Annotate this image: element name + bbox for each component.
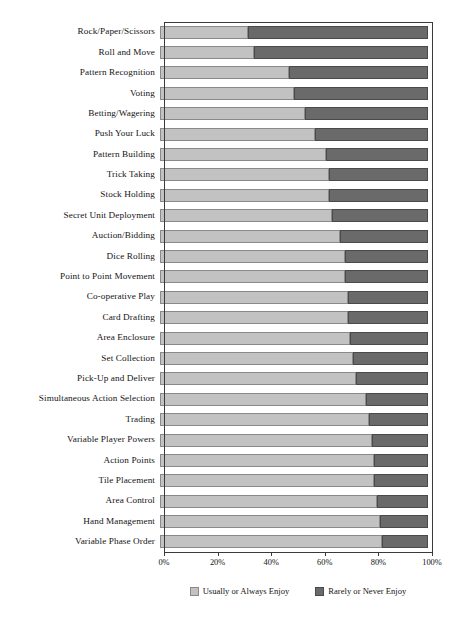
bar-track — [160, 270, 428, 283]
bar-segment-usually-or-always-enjoy — [160, 189, 329, 202]
chart-row: Trick Taking — [0, 165, 454, 185]
legend-item: Usually or Always Enjoy — [190, 586, 290, 596]
bar-track — [160, 352, 428, 365]
category-label: Tile Placement — [0, 476, 160, 486]
bar-segment-usually-or-always-enjoy — [160, 372, 356, 385]
bar-segment-rarely-or-never-enjoy — [315, 128, 428, 141]
stacked-bar-chart: Rock/Paper/ScissorsRoll and MovePattern … — [0, 0, 454, 638]
bar-track — [160, 291, 428, 304]
category-label: Point to Point Movement — [0, 272, 160, 282]
bar-segment-usually-or-always-enjoy — [160, 46, 254, 59]
bar-track — [160, 168, 428, 181]
legend-label: Usually or Always Enjoy — [203, 586, 290, 596]
bar-segment-rarely-or-never-enjoy — [380, 515, 428, 528]
chart-row: Voting — [0, 83, 454, 103]
category-label: Card Drafting — [0, 313, 160, 323]
category-label: Auction/Bidding — [0, 231, 160, 241]
category-label: Variable Player Powers — [0, 435, 160, 445]
bar-segment-usually-or-always-enjoy — [160, 332, 350, 345]
category-label: Secret Unit Deployment — [0, 211, 160, 221]
x-axis-tick — [325, 552, 326, 556]
chart-row: Variable Phase Order — [0, 532, 454, 552]
category-label: Set Collection — [0, 354, 160, 364]
x-axis-line — [164, 552, 432, 553]
bar-segment-usually-or-always-enjoy — [160, 168, 329, 181]
chart-row: Variable Player Powers — [0, 430, 454, 450]
category-label: Variable Phase Order — [0, 537, 160, 547]
bar-segment-rarely-or-never-enjoy — [348, 311, 428, 324]
legend-swatch-icon — [315, 587, 324, 596]
bar-track — [160, 230, 428, 243]
bar-segment-usually-or-always-enjoy — [160, 495, 377, 508]
category-label: Hand Management — [0, 517, 160, 527]
bar-segment-usually-or-always-enjoy — [160, 87, 294, 100]
chart-row: Co-operative Play — [0, 287, 454, 307]
bar-segment-rarely-or-never-enjoy — [353, 352, 428, 365]
category-label: Trick Taking — [0, 170, 160, 180]
bar-segment-rarely-or-never-enjoy — [345, 250, 428, 263]
bar-track — [160, 46, 428, 59]
chart-row: Auction/Bidding — [0, 226, 454, 246]
x-axis-tick — [378, 552, 379, 556]
bar-segment-rarely-or-never-enjoy — [332, 209, 428, 222]
chart-row: Simultaneous Action Selection — [0, 389, 454, 409]
chart-row: Card Drafting — [0, 307, 454, 327]
category-label: Pattern Building — [0, 150, 160, 160]
bar-segment-usually-or-always-enjoy — [160, 393, 366, 406]
chart-row: Secret Unit Deployment — [0, 206, 454, 226]
bar-track — [160, 454, 428, 467]
bar-segment-rarely-or-never-enjoy — [377, 495, 428, 508]
bar-track — [160, 66, 428, 79]
bar-segment-usually-or-always-enjoy — [160, 230, 340, 243]
bar-segment-rarely-or-never-enjoy — [369, 413, 428, 426]
bar-segment-rarely-or-never-enjoy — [248, 26, 428, 39]
category-label: Co-operative Play — [0, 292, 160, 302]
category-label: Pick-Up and Deliver — [0, 374, 160, 384]
bar-segment-usually-or-always-enjoy — [160, 148, 326, 161]
bar-track — [160, 495, 428, 508]
bar-segment-usually-or-always-enjoy — [160, 352, 353, 365]
bar-segment-usually-or-always-enjoy — [160, 128, 315, 141]
chart-row: Push Your Luck — [0, 124, 454, 144]
bar-segment-usually-or-always-enjoy — [160, 291, 348, 304]
y-axis-line — [164, 22, 165, 552]
chart-row: Pattern Building — [0, 144, 454, 164]
legend-swatch-icon — [190, 587, 199, 596]
bar-segment-rarely-or-never-enjoy — [374, 454, 428, 467]
x-axis-tick-label: 0% — [158, 558, 169, 567]
chart-row: Hand Management — [0, 511, 454, 531]
bar-segment-rarely-or-never-enjoy — [350, 332, 428, 345]
chart-legend: Usually or Always EnjoyRarely or Never E… — [164, 586, 432, 596]
bar-track — [160, 250, 428, 263]
bar-segment-usually-or-always-enjoy — [160, 454, 374, 467]
bar-segment-rarely-or-never-enjoy — [289, 66, 428, 79]
bar-segment-rarely-or-never-enjoy — [382, 535, 428, 548]
bar-segment-rarely-or-never-enjoy — [254, 46, 428, 59]
category-label: Area Enclosure — [0, 333, 160, 343]
chart-row: Dice Rolling — [0, 246, 454, 266]
chart-row: Stock Holding — [0, 185, 454, 205]
x-axis-tick-label: 100% — [422, 558, 442, 567]
bar-segment-usually-or-always-enjoy — [160, 413, 369, 426]
chart-row: Betting/Wagering — [0, 104, 454, 124]
bar-track — [160, 434, 428, 447]
chart-row: Set Collection — [0, 348, 454, 368]
bar-segment-usually-or-always-enjoy — [160, 66, 289, 79]
bar-segment-rarely-or-never-enjoy — [372, 434, 428, 447]
bar-segment-rarely-or-never-enjoy — [348, 291, 428, 304]
category-label: Push Your Luck — [0, 129, 160, 139]
x-axis-tick-labels: 0%20%40%60%80%100% — [0, 558, 454, 572]
x-axis-tick — [271, 552, 272, 556]
plot-area: Rock/Paper/ScissorsRoll and MovePattern … — [0, 0, 454, 638]
bar-segment-rarely-or-never-enjoy — [345, 270, 428, 283]
x-axis-tick — [218, 552, 219, 556]
chart-row: Area Control — [0, 491, 454, 511]
bar-segment-usually-or-always-enjoy — [160, 26, 248, 39]
bar-rows: Rock/Paper/ScissorsRoll and MovePattern … — [0, 22, 454, 552]
category-label: Trading — [0, 415, 160, 425]
bar-track — [160, 515, 428, 528]
category-label: Simultaneous Action Selection — [0, 394, 160, 404]
bar-track — [160, 393, 428, 406]
bar-track — [160, 128, 428, 141]
bar-track — [160, 107, 428, 120]
